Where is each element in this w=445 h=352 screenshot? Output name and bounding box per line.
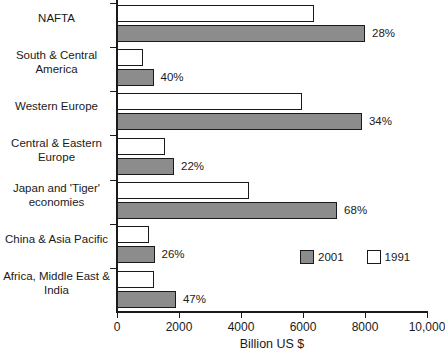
x-axis-tick — [365, 312, 366, 318]
bar-2001-africa-middle-east-india — [117, 291, 176, 308]
legend-label-2001: 2001 — [318, 251, 344, 263]
pct-label-nafta: 28% — [372, 25, 395, 42]
x-axis-tick — [117, 312, 118, 318]
x-axis-tick-label: 2000 — [166, 320, 193, 334]
category-label-central-eastern-europe: Central & Eastern Europe — [0, 137, 113, 164]
bar-1991-africa-middle-east-india — [117, 271, 154, 288]
bar-1991-central-eastern-europe — [117, 138, 165, 155]
pct-label-central-eastern-europe: 22% — [181, 158, 204, 175]
bar-2001-central-eastern-europe — [117, 158, 174, 175]
y-axis-tick — [110, 224, 117, 225]
legend-entry-2001: 2001 — [300, 250, 344, 264]
bar-1991-south-central-america — [117, 49, 143, 66]
x-axis-line — [116, 311, 428, 313]
white-swatch-icon — [367, 250, 381, 264]
y-axis-tick — [110, 47, 117, 48]
bar-2001-south-central-america — [117, 69, 154, 86]
category-label-japan-tiger-economies: Japan and 'Tiger' economies — [0, 182, 113, 209]
plot-area: 28% 40% 34% 22% 68% 26% 47% — [117, 0, 427, 311]
y-axis-tick — [110, 3, 117, 4]
legend-label-1991: 1991 — [385, 251, 411, 263]
bar-1991-japan-tiger-economies — [117, 182, 249, 199]
pct-label-south-central-america: 40% — [161, 69, 184, 86]
x-axis-tick — [427, 312, 428, 318]
x-axis-tick-label: 0 — [114, 320, 121, 334]
x-axis-tick — [241, 312, 242, 318]
bar-2001-japan-tiger-economies — [117, 202, 337, 219]
legend-entry-1991: 1991 — [367, 250, 411, 264]
bar-2001-nafta — [117, 25, 365, 42]
gray-swatch-icon — [300, 250, 314, 264]
pct-label-western-europe: 34% — [369, 113, 392, 130]
bar-1991-china-asia-pacific — [117, 226, 149, 243]
x-axis-tick — [179, 312, 180, 318]
category-label-nafta: NAFTA — [0, 12, 113, 26]
x-axis-title: Billion US $ — [117, 337, 427, 351]
y-axis-tick — [110, 91, 117, 92]
bar-2001-china-asia-pacific — [117, 246, 155, 263]
bar-1991-nafta — [117, 5, 314, 22]
legend: 2001 1991 — [300, 250, 410, 264]
y-axis-tick — [110, 135, 117, 136]
x-axis-tick — [303, 312, 304, 318]
x-axis-tick-label: 10,000 — [409, 320, 445, 334]
bar-1991-western-europe — [117, 93, 302, 110]
x-axis-tick-label: 4000 — [228, 320, 255, 334]
category-label-africa-middle-east-india: Africa, Middle East & India — [0, 270, 113, 297]
y-axis-tick — [110, 180, 117, 181]
category-label-china-asia-pacific: China & Asia Pacific — [0, 233, 113, 247]
category-label-south-central-america: South & Central America — [0, 49, 113, 76]
y-axis-tick — [110, 268, 117, 269]
bar-2001-western-europe — [117, 113, 362, 130]
pct-label-china-asia-pacific: 26% — [162, 246, 185, 263]
pct-label-japan-tiger-economies: 68% — [344, 202, 367, 219]
x-axis-tick-label: 8000 — [352, 320, 379, 334]
x-axis-tick-label: 6000 — [290, 320, 317, 334]
pct-label-africa-middle-east-india: 47% — [183, 291, 206, 308]
category-label-western-europe: Western Europe — [0, 100, 113, 114]
